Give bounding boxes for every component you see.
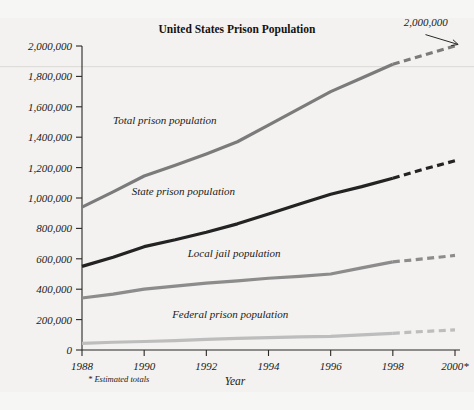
x-tick-label: 1990 xyxy=(133,360,156,372)
page-title: United States Prison Population xyxy=(159,23,316,36)
y-tick-label: 1,800,000 xyxy=(28,70,73,82)
chart-container: United States Prison Population 0200,000… xyxy=(0,0,474,410)
series-label-3: Federal prison population xyxy=(171,308,289,320)
x-tick-label: 1988 xyxy=(71,360,94,372)
total-2000-callout: 2,000,000 xyxy=(404,16,449,28)
y-tick-label: 600,000 xyxy=(36,253,72,265)
y-tick-label: 1,600,000 xyxy=(28,101,73,113)
y-tick-label: 800,000 xyxy=(36,222,72,234)
series-label-1: State prison population xyxy=(132,185,236,197)
y-tick-label: 0 xyxy=(67,344,73,356)
x-axis-title: Year xyxy=(225,375,246,387)
x-tick-label: 1994 xyxy=(258,360,281,372)
x-tick-label: 1996 xyxy=(320,360,343,372)
y-tick-label: 1,400,000 xyxy=(28,131,73,143)
series-label-2: Local jail population xyxy=(187,247,281,259)
y-tick-label: 200,000 xyxy=(36,314,72,326)
y-tick-label: 1,200,000 xyxy=(28,162,73,174)
scan-artifact-line xyxy=(0,66,474,67)
y-tick-label: 1,000,000 xyxy=(28,192,73,204)
prison-population-line-chart: United States Prison Population 0200,000… xyxy=(0,0,474,410)
series-label-0: Total prison population xyxy=(113,114,217,126)
x-tick-label: 2000* xyxy=(441,360,469,372)
x-tick-label: 1992 xyxy=(195,360,218,372)
y-tick-label: 2,000,000 xyxy=(28,40,73,52)
x-tick-label: 1998 xyxy=(382,360,405,372)
scan-artifact-bottom xyxy=(0,392,474,410)
y-tick-label: 400,000 xyxy=(36,283,72,295)
footnote: * Estimated totals xyxy=(88,374,150,384)
